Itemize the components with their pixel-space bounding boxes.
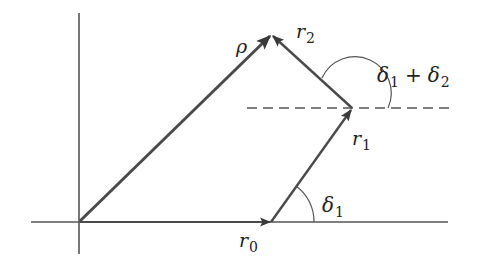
label-r2: r2 bbox=[296, 20, 315, 46]
label-r0: r0 bbox=[239, 229, 258, 255]
label-delta-sum: δ1+δ2 bbox=[377, 63, 450, 90]
vector-rho bbox=[80, 36, 270, 221]
label-delta1: δ1 bbox=[322, 193, 344, 220]
label-rho: ρ bbox=[235, 35, 248, 57]
vector-r2 bbox=[273, 36, 352, 108]
vector-diagram: ρ r2 r1 r0 δ1 δ1+δ2 bbox=[0, 0, 478, 266]
angle-arc-delta1 bbox=[296, 186, 314, 222]
label-r1: r1 bbox=[352, 127, 371, 153]
